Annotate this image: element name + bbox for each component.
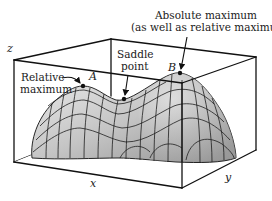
saddle-point-marker: [122, 97, 126, 101]
absolute-max-arrow: [181, 37, 187, 69]
z-axis-label: z: [6, 42, 13, 55]
surface-diagram: z x y Relative maximum A Saddle point Ab…: [0, 0, 272, 201]
saddle-label-line2: point: [121, 60, 149, 72]
saddle-label-line1: Saddle: [117, 48, 153, 60]
point-a-marker: [81, 84, 85, 88]
saddle-arrow: [125, 75, 128, 95]
point-b-label: B: [167, 61, 176, 74]
point-a-label: A: [88, 70, 97, 83]
relative-max-label-line2: maximum: [20, 83, 72, 95]
relative-max-label-line1: Relative: [21, 71, 64, 83]
absolute-max-label-line1: Absolute maximum: [154, 9, 257, 21]
point-b-marker: [178, 71, 182, 75]
x-axis-label: x: [90, 177, 97, 190]
y-axis-label: y: [224, 171, 232, 184]
absolute-max-label-line2: (as well as relative maximum): [131, 21, 272, 33]
